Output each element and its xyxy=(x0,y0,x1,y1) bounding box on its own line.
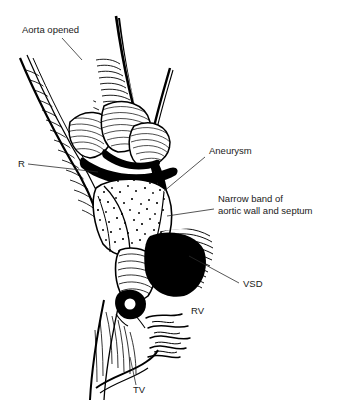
label-aneurysm: Aneurysm xyxy=(209,145,252,156)
label-narrow-band-line-1: Narrow band of xyxy=(218,193,283,204)
label-aorta-opened: Aorta opened xyxy=(22,24,79,35)
anatomical-illustration: Aorta opened R Aneurysm Narrow band of a… xyxy=(0,0,337,407)
label-vsd: VSD xyxy=(243,278,263,289)
label-tv: TV xyxy=(133,384,146,395)
figure-container: Aorta opened R Aneurysm Narrow band of a… xyxy=(0,0,337,407)
label-narrow-band-line-2: aortic wall and septum xyxy=(218,205,313,216)
label-rv: RV xyxy=(191,305,205,316)
label-r-cusp: R xyxy=(18,158,25,169)
